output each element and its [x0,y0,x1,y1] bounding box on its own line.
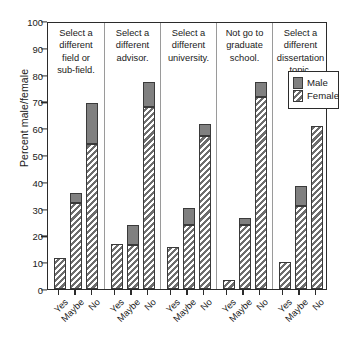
bar-segment-male [86,103,98,145]
bar-segment-male [183,208,195,225]
bar-segment-female [183,225,195,289]
stacked-bar [127,225,139,289]
bar-group [161,23,216,289]
legend-item: Male [293,77,334,89]
y-axis-tick-label: 60 [13,124,43,135]
chart-panel: Select adifferentfield orsub-field. [48,23,104,289]
bar-segment-female [255,97,267,289]
x-axis-tick-mark [226,290,227,295]
bar-segment-male [199,124,211,136]
legend: MaleFemale [288,71,339,109]
y-axis-tick-label: 100 [13,17,43,28]
bar-segment-female [54,258,66,289]
chart-panel: Select adifferentdissertationtopic. [272,23,328,289]
bar-segment-male [127,225,139,245]
legend-label: Male [307,78,328,88]
plot-area: Select adifferentfield orsub-field.Selec… [47,22,327,290]
stacked-bar [311,126,323,289]
bar-segment-female [223,280,235,289]
y-axis-tick-label: 70 [13,97,43,108]
stacked-bar [86,103,98,289]
bar-segment-female [143,107,155,289]
stacked-bar [223,280,235,289]
x-axis-tick-mark [315,290,316,295]
bar-segment-female [239,225,251,289]
chart-panel: Not go tograduateschool. [216,23,272,289]
stacked-bar [111,244,123,289]
x-axis-tick-mark [259,290,260,295]
y-axis-tick-label: 80 [13,70,43,81]
stacked-bar [295,186,307,289]
x-axis-tick-mark [58,290,59,295]
legend-item: Female [293,90,334,102]
bar-segment-male [70,193,82,204]
y-axis-tick-label: 30 [13,204,43,215]
y-axis-tick-label: 10 [13,258,43,269]
stacked-bar [54,258,66,289]
stacked-bar [70,193,82,289]
stacked-bar-chart: Percent male/female 01020304050607080901… [0,0,344,342]
x-axis-tick-mark [114,290,115,295]
legend-swatch-male [293,77,303,89]
stacked-bar [255,82,267,289]
bar-segment-female [295,206,307,289]
stacked-bar [167,247,179,289]
x-axis-tick-mark [130,290,131,295]
x-axis-tick-mark [298,290,299,295]
y-axis-tick-label: 90 [13,43,43,54]
bar-segment-female [311,126,323,289]
chart-panel: Select adifferentadvisor. [104,23,160,289]
x-axis-tick-mark [74,290,75,295]
bar-segment-female [167,247,179,289]
bar-group [273,23,328,289]
stacked-bar [183,208,195,289]
bar-segment-female [199,136,211,289]
bar-segment-female [70,203,82,289]
bar-segment-female [111,244,123,289]
legend-swatch-female [293,90,303,102]
bar-segment-male [239,218,251,225]
stacked-bar [143,82,155,289]
stacked-bar [239,218,251,289]
bar-segment-male [255,82,267,97]
y-axis-tick-label: 0 [13,285,43,296]
x-axis-tick-mark [186,290,187,295]
bar-segment-female [127,245,139,289]
x-axis-tick-mark [282,290,283,295]
bar-group [105,23,160,289]
bar-segment-male [143,82,155,107]
bar-group [217,23,272,289]
bar-segment-female [86,144,98,289]
stacked-bar [279,262,291,289]
x-axis-tick-mark [91,290,92,295]
bar-segment-male [295,186,307,206]
bar-group [48,23,104,289]
chart-panel: Select adifferentuniversity. [160,23,216,289]
bar-segment-female [279,262,291,289]
x-axis-tick-mark [147,290,148,295]
y-axis-tick-label: 40 [13,177,43,188]
stacked-bar [199,124,211,289]
x-axis-tick-mark [203,290,204,295]
x-axis-tick-mark [170,290,171,295]
y-axis-tick-label: 20 [13,231,43,242]
y-axis-tick-label: 50 [13,151,43,162]
x-axis-tick-mark [242,290,243,295]
legend-label: Female [307,91,339,101]
